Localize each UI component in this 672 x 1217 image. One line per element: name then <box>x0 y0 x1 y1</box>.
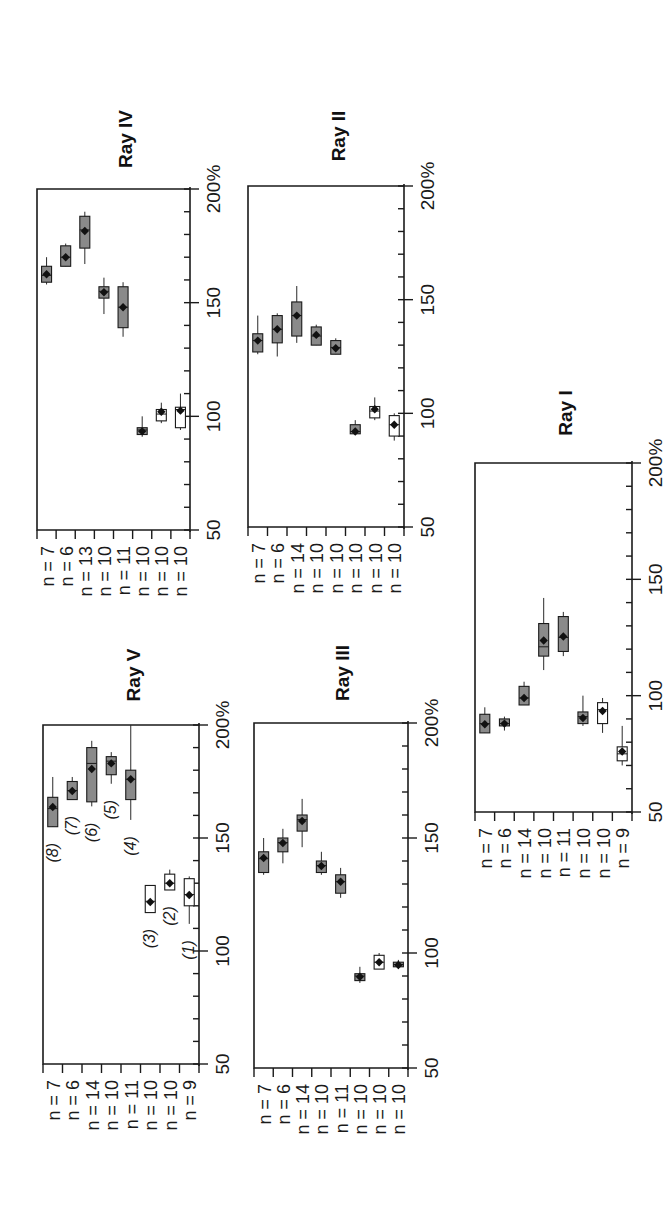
sample-size-label: n = 7 <box>38 546 58 587</box>
box-plot-row <box>259 838 269 875</box>
box-plot-row <box>355 967 365 983</box>
panel-ray-i: 50100150200%n = 7n = 6n = 14n = 10n = 11… <box>475 390 666 878</box>
box-plot-row <box>272 313 282 356</box>
value-tick-label: 50 <box>417 516 438 537</box>
box-plot-row <box>175 394 185 430</box>
value-tick-label: 50 <box>212 1053 233 1074</box>
box-plot-row <box>539 598 549 670</box>
value-tick-label: 200% <box>417 162 438 211</box>
box-plot-figure: 50100150200%n = 7n = 6n = 13n = 10n = 11… <box>0 0 672 1217</box>
box-plot-row <box>578 696 588 726</box>
panels-group: 50100150200%n = 7n = 6n = 13n = 10n = 11… <box>37 110 666 1135</box>
sample-size-label: n = 14 <box>515 828 535 879</box>
sample-size-label: n = 9 <box>613 828 633 869</box>
box-plot-row <box>558 612 568 656</box>
plot-frame <box>475 463 632 812</box>
group-number-label: (4) <box>122 836 139 856</box>
box-plot-row <box>67 777 77 800</box>
box-plot-row <box>370 397 380 420</box>
sample-size-label: n = 10 <box>594 828 614 879</box>
panel-ray-iii: 50100150200%n = 7n = 6n = 14n = 10n = 11… <box>254 645 442 1135</box>
panel-title: Ray I <box>555 390 576 435</box>
sample-size-label: n = 10 <box>312 1084 332 1135</box>
group-number-label: (6) <box>83 823 100 843</box>
box-plot-row <box>184 876 194 923</box>
panel-title: Ray III <box>332 645 353 701</box>
sample-size-label: n = 10 <box>307 543 327 594</box>
interquartile-box <box>87 748 97 802</box>
sample-size-label: n = 11 <box>332 1084 352 1133</box>
box-plot-row <box>156 403 166 423</box>
sample-size-label: n = 14 <box>288 543 308 594</box>
sample-size-label: n = 10 <box>152 546 172 597</box>
panel-ray-v: 50100150200%n = 7n = 6n = 14n = 10n = 11… <box>43 648 233 1130</box>
sample-size-label: n = 6 <box>495 828 515 869</box>
box-plot-row <box>126 725 136 820</box>
box-plot-row <box>118 282 128 337</box>
sample-size-label: n = 7 <box>255 1084 275 1125</box>
box-plot-row <box>80 212 90 264</box>
value-tick-label: 150 <box>421 822 442 854</box>
sample-size-label: n = 10 <box>102 1080 122 1131</box>
sample-size-label: n = 11 <box>122 1080 142 1129</box>
value-tick-label: 200% <box>645 439 666 488</box>
sample-size-label: n = 7 <box>476 828 496 869</box>
sample-size-label: n = 10 <box>161 1080 181 1131</box>
sample-size-label: n = 13 <box>76 546 96 597</box>
group-number-label: (1) <box>180 940 197 960</box>
box-plot-row <box>278 829 288 864</box>
group-number-label: (3) <box>141 929 158 949</box>
plot-frame <box>254 723 408 1068</box>
box-plot-row <box>499 717 509 731</box>
value-tick-label: 100 <box>212 935 233 967</box>
plot-frame <box>37 189 190 530</box>
sample-size-label: n = 10 <box>370 1084 390 1135</box>
sample-size-label: n = 10 <box>385 543 405 594</box>
sample-size-label: n = 6 <box>268 543 288 584</box>
sample-size-label: n = 10 <box>95 546 115 597</box>
sample-size-label: n = 14 <box>293 1084 313 1135</box>
box-plot-row <box>331 338 341 354</box>
sample-size-label: n = 7 <box>249 543 269 584</box>
box-plot-row <box>87 741 97 807</box>
group-number-label: (8) <box>44 843 61 863</box>
sample-size-label: n = 14 <box>83 1080 103 1131</box>
sample-size-label: n = 6 <box>63 1080 83 1121</box>
sample-size-label: n = 10 <box>171 546 191 597</box>
box-plot-row <box>311 325 321 345</box>
box-plot-row <box>374 953 384 969</box>
panel-title: Ray II <box>328 111 349 162</box>
box-plot-row <box>350 420 360 436</box>
panel-ray-iv: 50100150200%n = 7n = 6n = 13n = 10n = 11… <box>37 110 224 597</box>
box-plot-row <box>598 698 608 733</box>
box-plot-row <box>42 257 52 284</box>
value-tick-label: 150 <box>203 287 224 319</box>
box-plot-row <box>48 777 58 827</box>
value-tick-label: 150 <box>417 284 438 316</box>
plot-frame <box>43 725 199 1064</box>
box-plot-row <box>389 413 399 440</box>
sample-size-label: n = 10 <box>574 828 594 879</box>
box-plot-row <box>106 752 116 784</box>
panel-title: Ray V <box>123 648 144 701</box>
plot-frame <box>248 186 404 527</box>
value-tick-label: 50 <box>203 519 224 540</box>
box-plot-row <box>336 868 346 898</box>
value-tick-label: 200% <box>421 699 442 748</box>
group-number-label: (5) <box>102 800 119 820</box>
box-plot-row <box>253 316 263 355</box>
value-tick-label: 150 <box>212 822 233 854</box>
panel-title: Ray IV <box>115 110 136 168</box>
value-tick-label: 100 <box>203 400 224 432</box>
sample-size-label: n = 10 <box>366 543 386 594</box>
sample-size-label: n = 10 <box>133 546 153 597</box>
value-tick-label: 100 <box>421 937 442 969</box>
sample-size-label: n = 10 <box>327 543 347 594</box>
sample-size-label: n = 7 <box>44 1080 64 1121</box>
box-plot-row <box>393 960 403 969</box>
box-plot-row <box>137 416 147 436</box>
value-tick-label: 50 <box>645 801 666 822</box>
box-plot-row <box>292 286 302 343</box>
box-plot-row <box>99 278 109 314</box>
value-tick-label: 50 <box>421 1057 442 1078</box>
